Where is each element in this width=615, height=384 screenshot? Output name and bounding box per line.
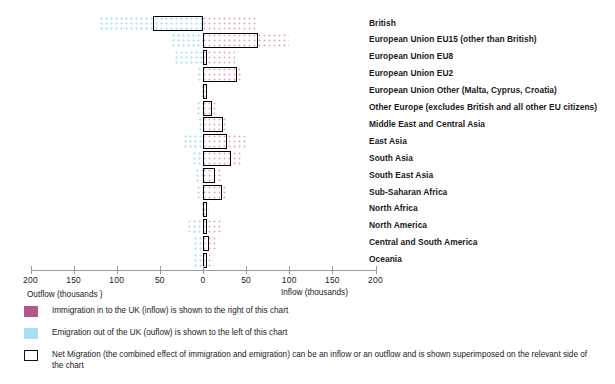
net-migration-bar xyxy=(203,117,223,132)
axis-tick xyxy=(74,266,75,274)
migration-flow-chart: 20015010050050100150200 BritishEuropean … xyxy=(0,0,615,384)
net-migration-bar xyxy=(203,84,207,99)
category-label: East Asia xyxy=(369,136,407,146)
category-label: European Union EU8 xyxy=(369,51,453,61)
net-migration-bar xyxy=(203,134,227,149)
legend-swatch-net xyxy=(24,350,38,361)
category-label: Oceania xyxy=(369,254,402,264)
outflow-bar xyxy=(196,169,203,182)
axis-tick-label: 100 xyxy=(102,275,132,285)
legend-swatch-blue xyxy=(24,328,38,339)
category-label: European Union EU15 (other than British) xyxy=(369,34,537,44)
axis-tick-label: 200 xyxy=(361,275,391,285)
outflow-bar xyxy=(184,135,203,148)
category-label: Sub-Saharan Africa xyxy=(369,187,447,197)
outflow-bar xyxy=(193,152,203,165)
category-label: South Asia xyxy=(369,153,413,163)
net-migration-bar xyxy=(203,151,231,166)
axis-tick xyxy=(31,266,32,274)
net-migration-bar xyxy=(203,67,237,82)
outflow-axis-caption: Outflow (thousands ) xyxy=(27,290,103,299)
axis-tick xyxy=(117,266,118,274)
inflow-bar xyxy=(203,51,235,64)
inflow-bar xyxy=(203,17,256,30)
net-migration-bar xyxy=(203,33,258,48)
category-label: North America xyxy=(369,220,427,230)
outflow-bar xyxy=(194,254,203,267)
axis-tick-label: 50 xyxy=(145,275,175,285)
net-migration-bar xyxy=(203,50,207,65)
category-label: European Union EU2 xyxy=(369,68,453,78)
net-migration-bar xyxy=(203,202,207,217)
axis-tick-label: 0 xyxy=(188,275,218,285)
chart-legend: Immigration in to the UK (inflow) is sho… xyxy=(0,304,615,384)
axis-tick xyxy=(332,266,333,274)
net-migration-bar xyxy=(153,16,203,31)
legend-swatch-pink xyxy=(24,306,38,317)
net-migration-bar xyxy=(203,219,207,234)
category-label: Other Europe (excludes British and all o… xyxy=(369,102,597,112)
legend-label: Emigration out of the UK (ouflow) is sho… xyxy=(52,328,597,339)
legend-label: Net Migration (the combined effect of im… xyxy=(52,350,597,371)
net-migration-bar xyxy=(203,101,212,116)
axis-tick-label: 200 xyxy=(16,275,46,285)
inflow-axis-caption: Inflow (thousands) xyxy=(281,288,348,297)
outflow-bar xyxy=(188,220,203,233)
category-label: European Union Other (Malta, Cyprus, Cro… xyxy=(369,85,557,95)
axis-tick xyxy=(203,266,204,274)
category-label-column: BritishEuropean Union EU15 (other than B… xyxy=(369,0,615,270)
outflow-bar xyxy=(172,34,203,47)
axis-tick xyxy=(246,266,247,274)
outflow-bar xyxy=(194,237,203,250)
category-label: British xyxy=(369,18,396,28)
category-label: North Africa xyxy=(369,203,418,213)
outflow-bar xyxy=(175,51,203,64)
axis-tick xyxy=(289,266,290,274)
net-migration-bar xyxy=(203,168,215,183)
net-migration-bar xyxy=(203,185,222,200)
axis-tick-label: 100 xyxy=(274,275,304,285)
legend-label: Immigration in to the UK (inflow) is sho… xyxy=(52,306,597,317)
category-label: Middle East and Central Asia xyxy=(369,119,485,129)
net-migration-bar xyxy=(203,236,209,251)
axis-tick-label: 150 xyxy=(317,275,347,285)
category-label: South East Asia xyxy=(369,170,433,180)
axis-tick-label: 150 xyxy=(59,275,89,285)
category-label: Central and South America xyxy=(369,237,477,247)
axis-tick xyxy=(160,266,161,274)
axis-tick-label: 50 xyxy=(231,275,261,285)
